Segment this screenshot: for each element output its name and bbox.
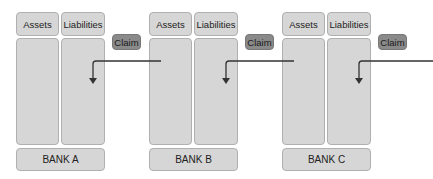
arrowhead-icon xyxy=(222,78,230,84)
arrowhead-icon xyxy=(89,78,97,84)
arrowhead-icon xyxy=(355,78,363,84)
arrow-c-to-b xyxy=(226,61,294,80)
claim-arrows xyxy=(0,0,433,179)
arrow-ext-to-c xyxy=(359,61,433,80)
arrow-b-to-a xyxy=(93,61,161,80)
